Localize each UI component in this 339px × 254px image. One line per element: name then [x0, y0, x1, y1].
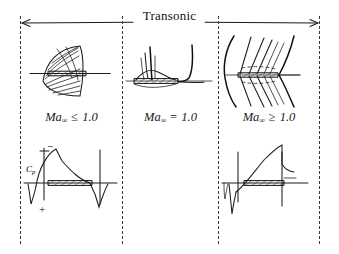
supersonic-cp-sketch	[220, 134, 318, 234]
divider-one-two	[122, 16, 123, 244]
cp-sign-minus: −	[47, 140, 53, 152]
label-mach-sonic: Ma∞ = 1.0	[124, 110, 217, 125]
panel-subsonic-label-wrap: Ma∞ ≤ 1.0	[22, 110, 121, 130]
panel-sonic-flow	[124, 34, 217, 106]
panel-sonic-label-wrap: Ma∞ = 1.0	[124, 110, 217, 130]
label-value: 1.0	[280, 110, 296, 124]
label-value: 1.0	[82, 110, 98, 124]
subsonic-flow-sketch	[22, 34, 121, 106]
divider-two-three	[218, 16, 219, 244]
subsonic-cp-sketch: Cp − +	[22, 134, 121, 234]
label-ma-subscript: ∞	[62, 116, 67, 125]
panel-sonic-cp-plot-empty	[124, 134, 217, 234]
label-ma-subscript: ∞	[161, 116, 166, 125]
transonic-span-header: Transonic	[0, 0, 339, 34]
label-value: 1.0	[181, 110, 197, 124]
sonic-flow-sketch	[124, 34, 217, 106]
label-mach-supersonic: Ma∞ ≥ 1.0	[220, 110, 318, 125]
label-ma-prefix: Ma	[45, 110, 62, 124]
panel-supersonic-label-wrap: Ma∞ ≥ 1.0	[220, 110, 318, 130]
label-ma-prefix: Ma	[144, 110, 161, 124]
label-ma-prefix: Ma	[243, 110, 260, 124]
divider-right-edge	[319, 16, 320, 244]
label-relation: ≥	[268, 110, 277, 124]
label-relation: ≤	[70, 110, 79, 124]
transonic-regimes-figure: Transonic	[0, 0, 339, 254]
panel-supersonic-cp-plot	[220, 134, 318, 234]
label-ma-subscript: ∞	[259, 116, 264, 125]
page-title: Transonic	[143, 8, 196, 24]
label-relation: =	[169, 110, 178, 124]
panel-subsonic-flow	[22, 34, 121, 106]
cp-sign-plus: +	[39, 203, 45, 215]
cp-axis-label: Cp	[26, 164, 36, 175]
supersonic-flow-sketch	[220, 34, 318, 108]
panel-supersonic-flow	[220, 34, 318, 108]
label-mach-subsonic: Ma∞ ≤ 1.0	[22, 110, 121, 125]
panel-subsonic-cp-plot: Cp − +	[22, 134, 121, 234]
divider-left-edge	[20, 16, 21, 244]
